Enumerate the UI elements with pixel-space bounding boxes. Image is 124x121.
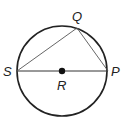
center-point <box>59 68 65 74</box>
label-s: S <box>3 64 12 79</box>
label-r: R <box>57 78 66 93</box>
segment-sq <box>17 28 77 71</box>
label-p: P <box>111 64 120 79</box>
segment-qp <box>77 28 108 71</box>
label-q: Q <box>72 9 82 24</box>
circle-diagram: Q S P R <box>0 0 124 121</box>
